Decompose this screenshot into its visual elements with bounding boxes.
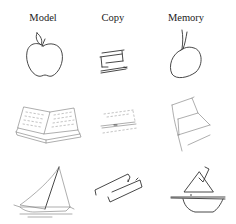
book-model-drawing: [14, 102, 84, 148]
book-memory-drawing: [166, 93, 224, 155]
sailboat-model-drawing: [12, 165, 76, 221]
apple-icon: [24, 30, 64, 80]
sailboat-copy-drawing: [92, 170, 150, 210]
open-book-icon: [14, 102, 84, 148]
faint-scribble-icon: [99, 108, 141, 138]
sailboat-icon: [12, 165, 76, 221]
round-fruit-icon: [166, 28, 206, 80]
sailboat-memory-drawing: [169, 164, 227, 216]
book-sketch-icon: [166, 93, 224, 155]
apple-memory-drawing: [166, 28, 206, 80]
book-copy-drawing: [99, 108, 141, 138]
scribble-rectangles-icon: [98, 48, 130, 76]
column-header-memory: Memory: [168, 12, 204, 24]
column-header-model: Model: [29, 12, 56, 24]
apple-model-drawing: [24, 30, 64, 80]
zigzag-scribble-icon: [92, 170, 150, 210]
drawing-comparison-figure: Model Copy Memory: [0, 0, 236, 224]
column-header-copy: Copy: [102, 12, 125, 24]
apple-copy-drawing: [98, 48, 130, 76]
sailboat-sketch-icon: [169, 164, 227, 216]
